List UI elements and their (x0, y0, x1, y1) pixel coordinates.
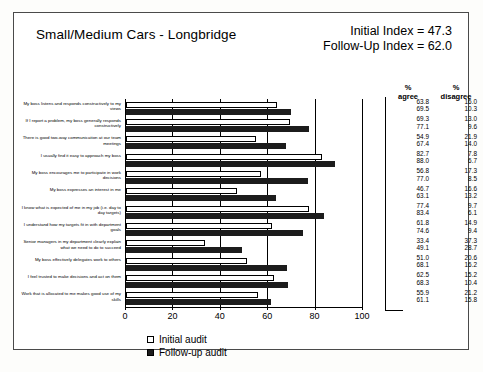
agree-percent-symbol: % (393, 83, 423, 92)
value-agree: 69.5 (393, 105, 429, 112)
bar-followup-audit (126, 230, 303, 236)
category-label: I understand how my targets fit in with … (17, 222, 121, 232)
bar-initial-audit (126, 240, 205, 246)
value-agree: 55.9 (393, 289, 429, 296)
chart-title: Small/Medium Cars - Longbridge (36, 27, 236, 42)
value-agree: 61.8 (393, 219, 429, 226)
value-agree: 77.1 (393, 123, 429, 130)
x-axis-tick-label: 40 (215, 311, 225, 321)
x-axis-tick-label: 60 (262, 311, 272, 321)
category-label: Senior managers in my department clearly… (17, 239, 121, 249)
bar-initial-audit (126, 275, 274, 281)
bar-followup-audit (126, 299, 271, 305)
x-axis-tick-label: 80 (310, 311, 320, 321)
chart-category-group (126, 116, 362, 133)
bar-followup-audit (126, 126, 309, 132)
bar-followup-audit (126, 109, 291, 115)
legend-item-followup: Follow-up audit (147, 346, 227, 359)
value-agree: 63.1 (393, 192, 429, 199)
value-disagree: 21.9 (435, 133, 477, 140)
category-label: My boss listens and responds constructiv… (17, 101, 121, 111)
chart-category-group (126, 203, 362, 220)
chart-category-group (126, 290, 362, 307)
x-axis-tickmark (172, 307, 173, 310)
chart-frame: Small/Medium Cars - Longbridge Initial I… (13, 12, 469, 350)
category-label: My boss encourages me to participate in … (17, 170, 121, 180)
value-disagree: 13.2 (435, 192, 477, 199)
bar-initial-audit (126, 188, 237, 194)
value-agree: 74.6 (393, 227, 429, 234)
value-disagree: 17.3 (435, 167, 477, 174)
bar-initial-audit (126, 292, 258, 298)
chart-category-group (126, 186, 362, 203)
value-disagree: 21.2 (435, 289, 477, 296)
index-summary: Initial Index = 47.3 Follow-Up Index = 6… (323, 24, 452, 54)
value-table-divider (385, 97, 386, 310)
bar-followup-audit (126, 195, 276, 201)
value-agree: 67.4 (393, 140, 429, 147)
chart-category-group (126, 255, 362, 272)
x-axis-tickmark (220, 307, 221, 310)
bar-followup-audit (126, 213, 324, 219)
value-disagree: 37.3 (435, 237, 477, 244)
value-disagree: 16.6 (435, 185, 477, 192)
value-disagree: 10.4 (435, 279, 477, 286)
value-disagree: 28.7 (435, 244, 477, 251)
bar-followup-audit (126, 247, 242, 253)
value-agree: 63.8 (393, 98, 429, 105)
legend-label-initial: Initial audit (159, 333, 207, 346)
value-disagree: 9.4 (435, 227, 477, 234)
legend-label-followup: Follow-up audit (159, 346, 227, 359)
category-label: My boss expresses an interest in me (17, 187, 121, 192)
category-label: I know what is expected of me in my job … (17, 205, 121, 215)
x-axis-tick-label: 0 (122, 311, 127, 321)
category-label: Work that is allocated to me makes good … (17, 291, 121, 301)
value-disagree: 6.1 (435, 209, 477, 216)
bar-initial-audit (126, 136, 256, 142)
gridline (362, 99, 363, 307)
category-label: My boss effectively delegates work to ot… (17, 257, 121, 262)
value-agree: 68.1 (393, 261, 429, 268)
bar-followup-audit (126, 282, 288, 288)
bar-initial-audit (126, 102, 277, 108)
value-disagree: 8.5 (435, 175, 477, 182)
initial-index-value: Initial Index = 47.3 (323, 24, 452, 39)
value-agree: 69.3 (393, 115, 429, 122)
value-disagree: 7.8 (435, 150, 477, 157)
value-disagree: 6.7 (435, 157, 477, 164)
value-disagree: 15.2 (435, 271, 477, 278)
bar-initial-audit (126, 258, 247, 264)
value-agree: 46.7 (393, 185, 429, 192)
value-agree: 77.0 (393, 175, 429, 182)
chart-category-group (126, 272, 362, 289)
category-label: I usually find it easy to approach my bo… (17, 153, 121, 158)
bar-followup-audit (126, 161, 335, 167)
value-disagree: 14.0 (435, 140, 477, 147)
chart-category-group (126, 134, 362, 151)
category-label: I feel trusted to make decisions and act… (17, 274, 121, 279)
x-axis (125, 307, 362, 308)
chart-legend: Initial audit Follow-up audit (147, 333, 227, 359)
x-axis-tick-label: 100 (354, 311, 369, 321)
value-agree: 82.7 (393, 150, 429, 157)
value-disagree: 16.0 (435, 98, 477, 105)
bar-initial-audit (126, 223, 272, 229)
bar-initial-audit (126, 171, 261, 177)
x-axis-tickmark (267, 307, 268, 310)
chart-category-group (126, 238, 362, 255)
value-disagree: 15.8 (435, 296, 477, 303)
value-disagree: 13.0 (435, 115, 477, 122)
bar-followup-audit (126, 178, 308, 184)
x-axis-tickmark (125, 307, 126, 310)
chart-category-group (126, 99, 362, 116)
plot-area: 020406080100 (125, 99, 362, 307)
value-agree: 62.5 (393, 271, 429, 278)
bar-initial-audit (126, 154, 322, 160)
value-agree: 33.4 (393, 237, 429, 244)
category-label: There is good two-way communication at o… (17, 135, 121, 145)
legend-swatch-followup-icon (147, 349, 154, 356)
value-agree: 68.3 (393, 279, 429, 286)
followup-index-value: Follow-Up Index = 62.0 (323, 39, 452, 54)
value-disagree: 10.3 (435, 105, 477, 112)
value-agree: 54.9 (393, 133, 429, 140)
